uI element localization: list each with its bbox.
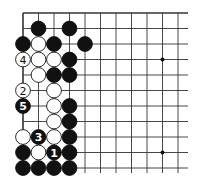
- star-point: [161, 58, 165, 62]
- move-number-label: 4: [20, 54, 27, 67]
- black-stone: [62, 161, 77, 176]
- black-stone: [31, 161, 46, 176]
- white-stone: [31, 68, 46, 83]
- black-stone: [62, 130, 77, 145]
- black-stone: [62, 68, 77, 83]
- white-stone: [47, 83, 62, 98]
- move-number-label: 3: [35, 131, 43, 144]
- black-stone: [16, 145, 31, 160]
- black-stone: [62, 145, 77, 160]
- white-stone: [47, 52, 62, 67]
- white-stone: [31, 37, 46, 52]
- black-stone: [62, 99, 77, 114]
- move-number-label: 2: [20, 85, 27, 98]
- black-stone: 3: [31, 130, 46, 145]
- white-stone: [16, 130, 31, 145]
- black-stone: [31, 21, 46, 36]
- white-stone: [31, 145, 46, 160]
- black-stone: [47, 68, 62, 83]
- white-stone: 2: [16, 83, 31, 98]
- black-stone: [62, 52, 77, 67]
- black-stone: [78, 37, 93, 52]
- move-number-label: 1: [50, 147, 58, 160]
- star-point: [161, 151, 165, 155]
- black-stone: 5: [16, 99, 31, 114]
- white-stone: 4: [16, 52, 31, 67]
- white-stone: [47, 99, 62, 114]
- black-stone: [16, 37, 31, 52]
- black-stone: [62, 21, 77, 36]
- black-stone: 1: [47, 145, 62, 160]
- white-stone: [31, 52, 46, 67]
- white-stone: [47, 130, 62, 145]
- black-stone: [47, 37, 62, 52]
- black-stone: [16, 161, 31, 176]
- black-stone: [47, 161, 62, 176]
- black-stone: [62, 114, 77, 129]
- go-board: 42531: [0, 0, 206, 181]
- white-stone: [47, 114, 62, 129]
- move-number-label: 5: [19, 100, 27, 113]
